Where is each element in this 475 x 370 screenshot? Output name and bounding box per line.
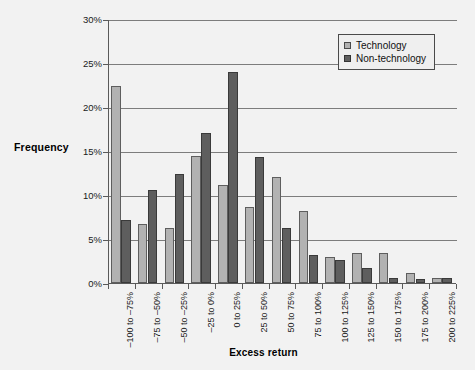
bar <box>111 86 121 283</box>
bar <box>299 211 309 283</box>
x-axis-tick-label: 50 to 75% <box>286 292 296 370</box>
y-axis-tick-label: 15% <box>60 147 102 157</box>
bar <box>218 185 228 283</box>
x-axis-tick-mark <box>429 284 430 289</box>
bar <box>325 257 335 283</box>
x-axis-tick-mark <box>322 284 323 289</box>
x-axis-tick-mark <box>269 284 270 289</box>
x-axis-tick-mark <box>162 284 163 289</box>
gridline <box>109 20 457 21</box>
bar <box>379 253 389 283</box>
bar <box>255 157 265 283</box>
x-axis-tick-label: 75 to 100% <box>313 292 323 370</box>
y-axis-tick-label: 25% <box>60 59 102 69</box>
x-axis-tick-mark <box>135 284 136 289</box>
x-axis-tick-label: 150 to 175% <box>393 292 403 370</box>
bar <box>352 253 362 283</box>
bar <box>362 268 372 283</box>
bar <box>389 278 399 283</box>
x-axis-tick-label: 125 to 150% <box>366 292 376 370</box>
x-axis-tick-mark <box>188 284 189 289</box>
bar <box>165 228 175 283</box>
bar <box>245 207 255 283</box>
light-gray-swatch-icon <box>344 42 351 49</box>
legend-item-technology: Technology <box>344 39 426 52</box>
x-axis-tick-label: –25 to 0% <box>206 292 216 370</box>
dark-gray-swatch-icon <box>344 55 351 62</box>
chart-legend: Technology Non-technology <box>338 34 435 70</box>
x-axis-tick-label: 25 to 50% <box>259 292 269 370</box>
y-axis-tick-label: 10% <box>60 191 102 201</box>
x-axis-tick-label: –75 to –50% <box>152 292 162 370</box>
x-axis-title: Excess return <box>0 347 475 358</box>
legend-item-label: Technology <box>356 40 407 51</box>
x-axis-tick-label: –100 to –75% <box>125 292 135 370</box>
bar <box>138 224 148 283</box>
legend-item-label: Non-technology <box>356 53 426 64</box>
x-axis-tick-label: 0 to 25% <box>232 292 242 370</box>
y-axis-tick-label: 0% <box>60 279 102 289</box>
x-axis-tick-mark <box>349 284 350 289</box>
y-axis-tick-label: 30% <box>60 15 102 25</box>
bar <box>228 72 238 283</box>
gridline <box>109 196 457 197</box>
x-axis-tick-mark <box>456 284 457 289</box>
x-axis-tick-label: –50 to –25% <box>179 292 189 370</box>
bar <box>201 133 211 283</box>
bar <box>148 190 158 283</box>
x-axis-tick-mark <box>242 284 243 289</box>
x-axis-tick-mark <box>295 284 296 289</box>
x-axis-tick-label: 200 to 225% <box>447 292 457 370</box>
bar <box>432 278 442 283</box>
x-axis-tick-label: 175 to 200% <box>420 292 430 370</box>
legend-item-non-technology: Non-technology <box>344 52 426 65</box>
x-axis-tick-label: 100 to 125% <box>340 292 350 370</box>
x-axis-tick-mark <box>376 284 377 289</box>
bar <box>406 273 416 283</box>
gridline <box>109 108 457 109</box>
bar <box>309 255 319 283</box>
bar <box>175 174 185 283</box>
bar <box>335 260 345 283</box>
x-axis-tick-mark <box>402 284 403 289</box>
bar <box>282 228 292 283</box>
gridline <box>109 152 457 153</box>
bar <box>121 220 131 283</box>
bar <box>416 279 426 283</box>
y-axis-tick-label: 20% <box>60 103 102 113</box>
x-axis-tick-mark <box>108 284 109 289</box>
bar <box>272 177 282 283</box>
frequency-histogram-chart: Frequency 30%25%20%15%10%5%0% –100 to –7… <box>0 0 475 370</box>
bar <box>442 278 452 283</box>
bar <box>191 156 201 283</box>
x-axis-tick-mark <box>215 284 216 289</box>
y-axis-tick-label: 5% <box>60 235 102 245</box>
